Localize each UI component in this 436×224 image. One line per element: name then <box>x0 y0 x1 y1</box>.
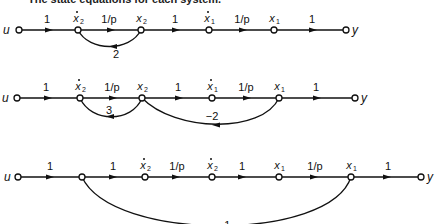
node-x1 <box>271 27 277 33</box>
node-x2-dot <box>142 174 148 180</box>
node-summing <box>79 174 85 180</box>
arrow-icon <box>212 123 220 128</box>
arrow-icon <box>45 28 53 33</box>
arrow-icon <box>109 96 117 101</box>
input-label: u <box>4 170 11 184</box>
node-x2-dot <box>77 95 83 101</box>
node-output-y <box>352 95 358 101</box>
feedback-gain: 2 <box>113 48 119 60</box>
arrow-icon <box>313 96 321 101</box>
node-label: x <box>206 159 213 171</box>
arrow-icon <box>238 175 246 180</box>
node-subscript: 2 <box>82 86 86 93</box>
signal-flow-figure: The state equations for each system. u y… <box>0 0 436 224</box>
node-label: x <box>203 12 210 24</box>
node-x1 <box>276 95 282 101</box>
arrow-icon <box>383 175 391 180</box>
node-subscript: 1 <box>353 165 357 172</box>
node-input-u <box>14 95 20 101</box>
arrow-icon <box>239 28 247 33</box>
input-label: u <box>2 91 9 105</box>
arrow-icon <box>46 175 54 180</box>
signal-flow-graph-3: u y x 2 x 2 x 1 x 1 1 1 1/p 1 1/p 1 −1 <box>4 158 434 224</box>
input-label: u <box>3 23 10 37</box>
branch-gain: 1/p <box>307 160 322 172</box>
node-label: x <box>345 159 352 171</box>
node-x1-2 <box>348 174 354 180</box>
node-x2-dot-2 <box>209 174 215 180</box>
node-subscript: 1 <box>214 86 218 93</box>
node-label: x <box>72 12 79 24</box>
output-label: y <box>426 170 434 184</box>
node-label: x <box>206 80 213 92</box>
feedback-branch-2 <box>78 30 141 47</box>
branch-gain: 1 <box>239 160 245 172</box>
node-label: x <box>135 12 142 24</box>
node-x2-dot <box>75 27 81 33</box>
signal-flow-graph-2: u y x 2 x 2 x 1 x 1 1 1/p 1 1/p 1 3 −2 <box>2 79 368 128</box>
node-subscript: 2 <box>147 165 151 172</box>
node-input-u <box>15 174 21 180</box>
node-x1-dot <box>206 27 212 33</box>
node-label: x <box>268 12 275 24</box>
arrow-icon <box>44 96 52 101</box>
node-subscript: 2 <box>144 86 148 93</box>
branch-gain: 1 <box>44 13 50 25</box>
node-output-y <box>418 174 424 180</box>
branch-gain: 1 <box>110 160 116 172</box>
branch-gain: 1 <box>385 160 391 172</box>
node-subscript: 1 <box>281 165 285 172</box>
node-x2 <box>138 27 144 33</box>
branch-gain: 1 <box>43 81 49 93</box>
node-x1 <box>276 174 282 180</box>
node-label: x <box>273 80 280 92</box>
node-subscript: 1 <box>281 86 285 93</box>
arrow-icon <box>172 28 180 33</box>
arrow-icon <box>172 175 180 180</box>
node-subscript: 1 <box>276 18 280 25</box>
arrow-icon <box>310 175 318 180</box>
node-subscript: 1 <box>211 18 215 25</box>
branch-gain: 1 <box>172 13 178 25</box>
node-x2 <box>139 95 145 101</box>
node-subscript: 2 <box>214 165 218 172</box>
feedback-branch-minus-1 <box>82 177 351 224</box>
arrow-icon <box>109 175 117 180</box>
arrow-icon <box>243 96 251 101</box>
branch-gain: 1 <box>175 81 181 93</box>
node-label: x <box>139 159 146 171</box>
arrow-icon <box>107 28 115 33</box>
arrow-icon <box>175 96 183 101</box>
output-label: y <box>351 23 359 37</box>
node-x1-dot <box>209 95 215 101</box>
branch-gain: 1/p <box>238 81 253 93</box>
node-label: x <box>136 80 143 92</box>
arrow-icon <box>309 28 317 33</box>
branch-gain: 1/p <box>169 160 184 172</box>
branch-gain: 1/p <box>101 13 116 25</box>
node-subscript: 2 <box>143 18 147 25</box>
node-subscript: 2 <box>80 18 84 25</box>
node-label: x <box>74 80 81 92</box>
node-label: x <box>273 159 280 171</box>
feedback-gain: −2 <box>206 110 219 122</box>
output-label: y <box>360 91 368 105</box>
feedback-gain: 3 <box>106 104 112 116</box>
branch-gain: 1/p <box>104 81 119 93</box>
branch-gain: 1 <box>47 160 53 172</box>
branch-gain: 1 <box>313 81 319 93</box>
node-input-u <box>16 27 22 33</box>
node-output-y <box>343 27 349 33</box>
branch-gain: 1/p <box>234 13 249 25</box>
figure-caption: The state equations for each system. <box>28 0 221 5</box>
feedback-gain: −1 <box>218 219 231 224</box>
signal-flow-graph-1: u y x 2 x 2 x 1 x 1 1 1/p 1 1/p 1 2 <box>3 11 359 60</box>
branch-gain: 1 <box>309 13 315 25</box>
